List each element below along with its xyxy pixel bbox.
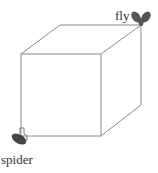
cube xyxy=(21,25,141,136)
cube-edge-bottom-right xyxy=(101,105,141,136)
fly-label: fly xyxy=(115,8,130,23)
cube-edge-top-right xyxy=(101,25,141,54)
fly-icon xyxy=(129,10,152,26)
spider-icon xyxy=(10,128,28,147)
cube-front-face xyxy=(21,54,101,136)
cube-edge-top-left xyxy=(21,25,60,54)
cube-diagram: fly spider xyxy=(0,0,158,173)
spider-label: spider xyxy=(1,152,33,167)
